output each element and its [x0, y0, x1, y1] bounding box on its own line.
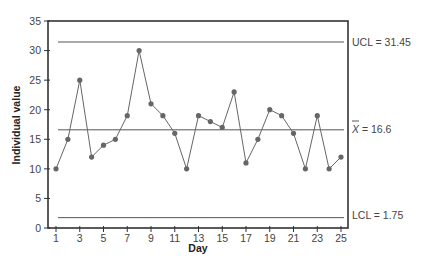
data-point [101, 143, 106, 148]
data-point [220, 125, 225, 130]
data-point [65, 137, 70, 142]
data-point [172, 131, 177, 136]
x-tick-label: 19 [264, 232, 276, 244]
data-point [208, 119, 213, 124]
plot-border [48, 21, 348, 228]
y-axis: 05101520253035 [29, 15, 50, 234]
control-chart: 05101520253035 135791113151719212325 Ind… [0, 0, 421, 271]
y-tick-label: 10 [29, 163, 41, 175]
y-tick-label: 30 [29, 44, 41, 56]
ucl-label: UCL = 31.45 [352, 36, 411, 48]
y-tick-label: 0 [35, 222, 41, 234]
y-tick-label: 25 [29, 74, 41, 86]
x-tick-label: 21 [288, 232, 300, 244]
data-point [267, 107, 272, 112]
x-tick-label: 11 [169, 232, 180, 244]
x-tick-label: 7 [124, 232, 130, 244]
data-point [89, 154, 94, 159]
control-limit-lines [58, 42, 344, 218]
x-tick-label: 25 [335, 232, 347, 244]
data-point [232, 89, 237, 94]
data-point [338, 154, 343, 159]
series-line [56, 51, 341, 169]
mean-value: = 16.6 [359, 123, 392, 135]
x-tick-label: 15 [216, 232, 228, 244]
data-point [315, 113, 320, 118]
y-tick-label: 15 [29, 133, 41, 145]
x-axis-title: Day [188, 242, 207, 254]
y-axis-title: Individual value [10, 85, 22, 164]
x-tick-label: 23 [311, 232, 323, 244]
y-tick-label: 35 [29, 15, 41, 27]
mean-label: X = 16.6 [351, 123, 392, 135]
data-point [196, 113, 201, 118]
x-tick-label: 17 [240, 232, 252, 244]
x-tick-label: 5 [101, 232, 107, 244]
data-point [148, 101, 153, 106]
data-point [255, 137, 260, 142]
x-tick-label: 3 [77, 232, 83, 244]
data-point [160, 113, 165, 118]
y-tick-label: 20 [29, 104, 41, 116]
y-tick-label: 5 [35, 192, 41, 204]
data-point [137, 48, 142, 53]
data-point [327, 166, 332, 171]
data-point [113, 137, 118, 142]
data-point [279, 113, 284, 118]
data-point [77, 78, 82, 83]
data-point [291, 131, 296, 136]
x-tick-label: 1 [53, 232, 59, 244]
data-point [125, 113, 130, 118]
data-point [303, 166, 308, 171]
data-point [243, 160, 248, 165]
plot-frame [48, 21, 348, 228]
data-point [184, 166, 189, 171]
data-point [53, 166, 58, 171]
lcl-label: LCL = 1.75 [352, 209, 403, 221]
x-tick-label: 9 [148, 232, 154, 244]
data-series [53, 48, 343, 171]
